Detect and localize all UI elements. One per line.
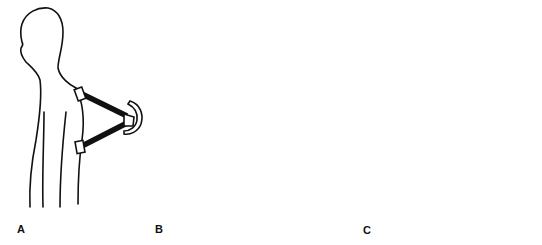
- panel-a: [21, 8, 142, 207]
- panel-c-label: C: [363, 224, 371, 236]
- panel-a-inclinometer: [74, 87, 142, 154]
- illustration-canvas: [0, 0, 542, 245]
- panel-a-label: A: [17, 223, 25, 235]
- panel-b-label: B: [155, 223, 163, 235]
- panel-a-body-outline: [21, 8, 83, 207]
